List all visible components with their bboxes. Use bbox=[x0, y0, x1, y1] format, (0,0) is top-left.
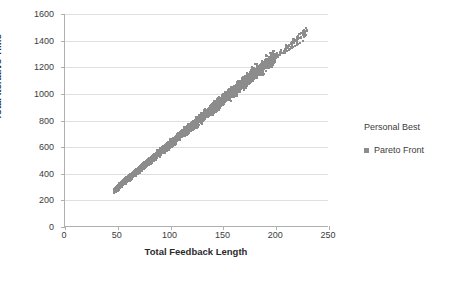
legend: Personal Best Pareto Front bbox=[364, 122, 424, 155]
x-axis-tick-label: 50 bbox=[112, 230, 122, 240]
x-axis-title: Total Feedback Length bbox=[64, 246, 328, 257]
scatter-chart: Total Iterative Time 0200400600800100012… bbox=[0, 0, 452, 283]
x-axis-tick-label: 0 bbox=[61, 230, 66, 240]
x-axis-tick-label: 250 bbox=[320, 230, 335, 240]
legend-swatch-icon bbox=[364, 148, 369, 153]
legend-title: Personal Best bbox=[364, 122, 424, 132]
legend-item-pareto-front: Pareto Front bbox=[364, 145, 424, 155]
x-axis-tick-label: 100 bbox=[162, 230, 177, 240]
x-axis-tick-label: 200 bbox=[268, 230, 283, 240]
x-axis-tick-label: 150 bbox=[215, 230, 230, 240]
legend-item-label: Pareto Front bbox=[374, 145, 424, 155]
